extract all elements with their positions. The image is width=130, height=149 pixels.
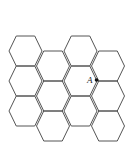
hexagon [37,111,70,141]
hexagon-grid-diagram: A [0,0,130,149]
hexagon [92,51,125,81]
hexagon [64,36,97,66]
hexagon-layer [9,36,125,141]
hexagon [92,81,125,111]
hexagon [37,81,70,111]
point-a-marker [95,78,99,82]
hexagon [64,96,97,126]
hexagon [9,66,42,96]
hexagon [9,96,42,126]
point-a-label: A [86,75,93,85]
hexagon [9,36,42,66]
hexagon [37,51,70,81]
hexagon [92,111,125,141]
